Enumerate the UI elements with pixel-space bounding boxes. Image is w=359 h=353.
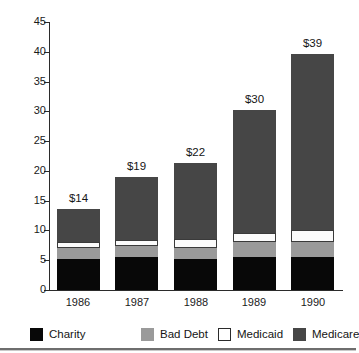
bar-group-1986[interactable]: $14	[57, 22, 100, 290]
y-axis-tick-label: 40	[20, 46, 46, 57]
bar-segment-medicaid[interactable]	[291, 230, 334, 242]
legend-label: Medicare	[312, 328, 359, 341]
y-axis-tick-label: 30	[20, 105, 46, 116]
bar-group-1990[interactable]: $39	[291, 22, 334, 290]
y-axis-tick-label-text: 30	[20, 105, 46, 116]
legend-item-medicaid[interactable]: Medicaid	[218, 326, 283, 342]
legend-item-bad-debt[interactable]: Bad Debt	[141, 326, 208, 342]
bar-segment-medicare[interactable]	[174, 163, 217, 239]
y-axis-tick-label: 10	[20, 224, 46, 235]
bar-value-label: $14	[49, 192, 109, 204]
bar-value-label: $39	[283, 37, 343, 49]
bar-segment-charity[interactable]	[115, 257, 158, 290]
bar-segment-bad-debt[interactable]	[291, 242, 334, 257]
bar-segment-medicare[interactable]	[233, 110, 276, 233]
y-axis-tick-label: 25	[20, 135, 46, 146]
medicare-swatch-icon	[293, 328, 306, 341]
bar-segment-medicaid[interactable]	[174, 239, 217, 248]
legend-label: Medicaid	[237, 328, 283, 341]
bar-group-1989[interactable]: $30	[233, 22, 276, 290]
chart-legend: CharityBad DebtMedicaidMedicare	[0, 326, 356, 346]
bar-value-label: $22	[166, 146, 226, 158]
bar-segment-charity[interactable]	[291, 257, 334, 290]
bar-segment-medicaid[interactable]	[233, 233, 276, 242]
bad-debt-swatch-icon	[141, 328, 154, 341]
legend-label: Bad Debt	[160, 328, 208, 341]
y-axis-tick-label-text: 35	[20, 76, 46, 87]
bar-segment-medicaid[interactable]	[57, 242, 100, 249]
y-axis-tick-label-text: 0	[20, 284, 46, 295]
y-axis-tick-label: 15	[20, 195, 46, 206]
bar-segment-medicare[interactable]	[57, 209, 100, 242]
bar-segment-charity[interactable]	[174, 259, 217, 290]
y-axis-tick-label-text: 45	[20, 16, 46, 27]
footer-rule-2	[0, 350, 356, 351]
legend-item-charity[interactable]: Charity	[30, 326, 85, 342]
legend-item-medicare[interactable]: Medicare	[293, 326, 359, 342]
bar-segment-bad-debt[interactable]	[233, 242, 276, 256]
y-axis-tick-label-text: 25	[20, 135, 46, 146]
y-axis-tick-label: 0	[20, 284, 46, 295]
bar-value-label: $30	[225, 93, 285, 105]
plot-area: $14$19$22$30$39	[49, 22, 342, 290]
bar-segment-medicaid[interactable]	[115, 240, 158, 246]
bar-segment-charity[interactable]	[57, 259, 100, 290]
y-axis-tick-label: 45	[20, 16, 46, 27]
y-axis-tick-label-text: 20	[20, 165, 46, 176]
y-axis-tick-label-text: 15	[20, 195, 46, 206]
charity-swatch-icon	[30, 328, 43, 341]
bar-value-label: $19	[107, 160, 167, 172]
bar-segment-medicare[interactable]	[291, 54, 334, 230]
legend-label: Charity	[49, 328, 85, 341]
y-axis-tick-label: 5	[20, 254, 46, 265]
bar-segment-charity[interactable]	[233, 257, 276, 290]
bar-segment-bad-debt[interactable]	[57, 248, 100, 259]
bar-group-1988[interactable]: $22	[174, 22, 217, 290]
bar-segment-bad-debt[interactable]	[115, 246, 158, 257]
y-axis-tick-label: 35	[20, 76, 46, 87]
medicaid-swatch-icon	[218, 328, 231, 341]
bar-segment-bad-debt[interactable]	[174, 248, 217, 259]
y-axis-tick-label: 20	[20, 165, 46, 176]
x-axis-tick-label: 1990	[278, 296, 348, 308]
y-axis-tick-label-text: 40	[20, 46, 46, 57]
y-axis-tick-label-text: 10	[20, 224, 46, 235]
y-axis-tick-label-text: 5	[20, 254, 46, 265]
bar-group-1987[interactable]: $19	[115, 22, 158, 290]
x-axis-line	[49, 290, 343, 291]
bar-segment-medicare[interactable]	[115, 177, 158, 240]
